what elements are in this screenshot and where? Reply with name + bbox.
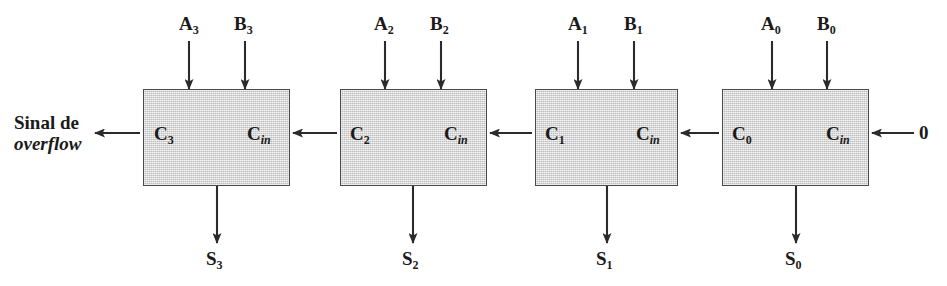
label-carry-out-c0: C0 (732, 124, 752, 143)
label-carry-out-c1: C1 (545, 124, 565, 143)
label-sum-s2: S2 (402, 249, 419, 268)
label-input-b0: B0 (817, 14, 836, 33)
label-carry-out-c2: C2 (350, 124, 370, 143)
label-carry-in-bit-1: Cin (636, 124, 660, 143)
label-carry-out-c3: C3 (154, 124, 174, 143)
label-input-a3: A3 (179, 14, 199, 33)
label-overflow-signal: Sinal de overflow (14, 112, 82, 155)
label-sum-s3: S3 (206, 249, 223, 268)
label-input-b3: B3 (234, 14, 253, 33)
ripple-carry-adder-diagram: A3 B3 A2 B2 A1 B1 A0 B0 C3 C2 C1 C0 Cin … (0, 0, 947, 286)
overflow-line-1: Sinal de (14, 112, 82, 133)
label-carry-in-bit-2: Cin (444, 124, 468, 143)
label-carry-in-constant: 0 (919, 123, 929, 142)
label-sum-s1: S1 (596, 249, 613, 268)
label-input-b1: B1 (624, 14, 643, 33)
label-carry-in-bit-0: Cin (826, 124, 850, 143)
label-input-a0: A0 (761, 14, 781, 33)
label-input-a2: A2 (374, 14, 394, 33)
label-carry-in-bit-3: Cin (247, 124, 271, 143)
label-input-b2: B2 (430, 14, 449, 33)
label-sum-s0: S0 (785, 249, 802, 268)
overflow-line-2: overflow (14, 133, 82, 154)
label-input-a1: A1 (568, 14, 588, 33)
